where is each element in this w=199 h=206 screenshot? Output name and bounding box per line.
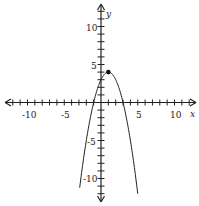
x-tick-label-neg5: -5 xyxy=(61,110,70,120)
coordinate-plane: y x -10 -5 5 10 10 5 -5 -10 xyxy=(0,0,199,206)
x-tick-label-10: 10 xyxy=(170,110,182,120)
y-tick-label-5: 5 xyxy=(91,61,97,71)
x-tick-label-neg10: -10 xyxy=(22,110,37,120)
x-tick-label-5: 5 xyxy=(136,110,142,120)
y-tick-label-neg5: -5 xyxy=(87,137,96,147)
y-tick-label-10: 10 xyxy=(86,23,98,33)
x-axis-label: x xyxy=(190,109,195,119)
vertex-point xyxy=(106,70,111,75)
y-axis-label: y xyxy=(105,9,112,19)
y-tick-label-neg10: -10 xyxy=(83,174,98,184)
